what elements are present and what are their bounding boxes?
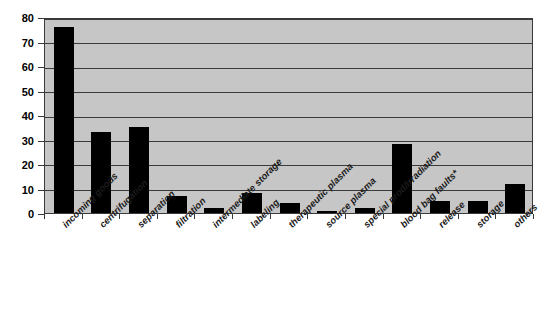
x-tick-mark	[458, 214, 459, 219]
x-tick-mark	[270, 214, 271, 219]
bar	[392, 144, 412, 213]
y-tick-mark	[38, 43, 44, 44]
x-tick-mark	[495, 214, 496, 219]
bar	[129, 127, 149, 213]
x-tick-mark	[420, 214, 421, 219]
y-tick-mark	[38, 165, 44, 166]
bar	[242, 193, 262, 213]
bar	[204, 208, 224, 213]
x-tick-mark	[345, 214, 346, 219]
plot-area	[44, 18, 533, 214]
x-tick-mark	[157, 214, 158, 219]
y-tick-mark	[38, 92, 44, 93]
bar	[54, 27, 74, 213]
x-tick-mark	[44, 214, 45, 219]
bar	[430, 201, 450, 213]
y-axis: 01020304050607080	[0, 0, 44, 309]
y-tick-label: 10	[22, 184, 34, 196]
x-tick-mark	[119, 214, 120, 219]
y-tick-label: 30	[22, 135, 34, 147]
y-tick-mark	[38, 141, 44, 142]
y-tick-label: 50	[22, 86, 34, 98]
x-axis-ticks	[44, 214, 533, 220]
x-tick-mark	[82, 214, 83, 219]
bar	[167, 196, 187, 213]
x-tick-mark	[232, 214, 233, 219]
y-tick-mark	[38, 190, 44, 191]
x-tick-mark	[194, 214, 195, 219]
y-tick-label: 60	[22, 61, 34, 73]
bar	[317, 211, 337, 213]
y-tick-label: 70	[22, 37, 34, 49]
y-tick-mark	[38, 67, 44, 68]
x-tick-mark	[383, 214, 384, 219]
bars-layer	[45, 19, 532, 213]
bar	[280, 203, 300, 213]
y-tick-label: 40	[22, 110, 34, 122]
y-tick-label: 0	[28, 208, 34, 220]
bar	[355, 208, 375, 213]
bar-chart: 01020304050607080 incoming goodscentrifu…	[0, 0, 547, 309]
x-tick-mark	[307, 214, 308, 219]
bar	[91, 132, 111, 213]
bar	[468, 201, 488, 213]
y-tick-mark	[38, 116, 44, 117]
x-tick-mark	[533, 214, 534, 219]
y-tick-label: 20	[22, 159, 34, 171]
bar	[505, 184, 525, 213]
y-tick-label: 80	[22, 12, 34, 24]
y-tick-mark	[38, 18, 44, 19]
